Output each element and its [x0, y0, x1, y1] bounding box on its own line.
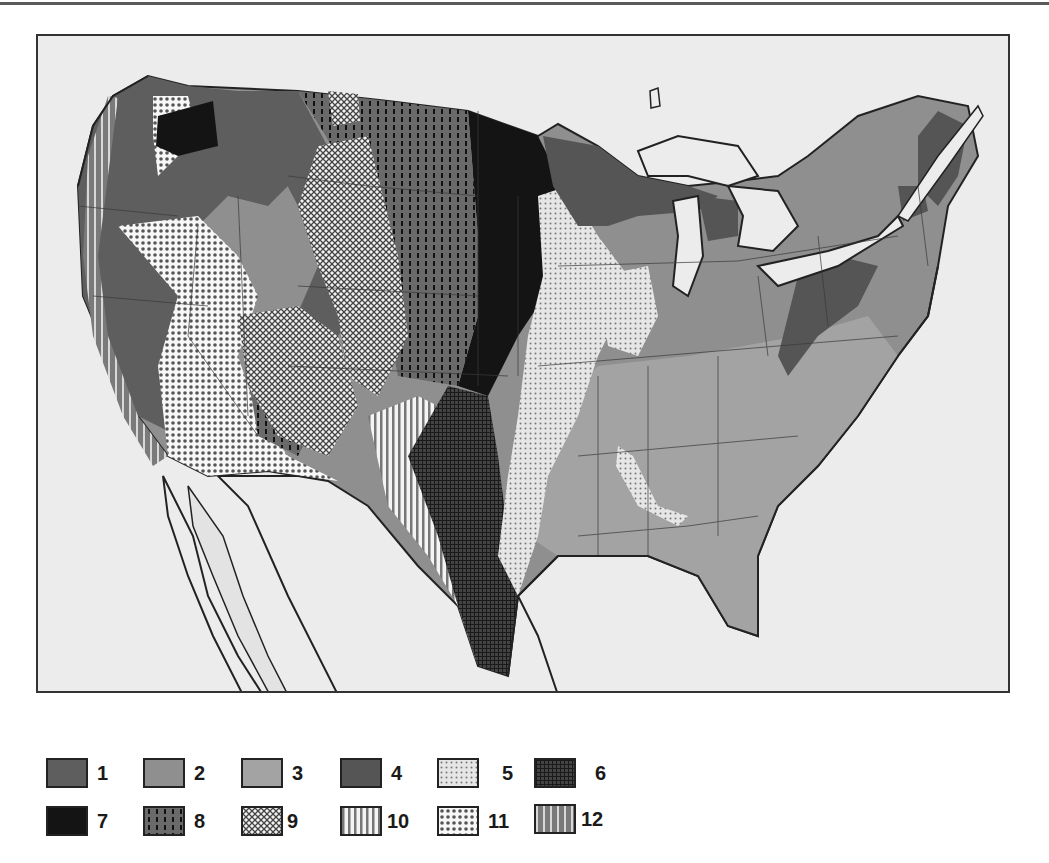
legend-swatch-vertical-lines-dark	[534, 804, 576, 834]
top-rule	[0, 2, 1049, 5]
legend-item-8: 8	[143, 804, 205, 838]
legend-swatch-crosshatch	[241, 806, 283, 836]
legend-label: 5	[502, 762, 513, 785]
legend-swatch-fine-dots	[437, 758, 479, 788]
legend-label: 9	[287, 810, 298, 833]
legend-item-5: 5	[437, 756, 513, 790]
legend-item-6: 6	[534, 756, 606, 790]
legend-item-4: 4	[340, 756, 402, 790]
legend-swatch-vertical-lines-light	[340, 806, 382, 836]
legend-item-9: 9	[241, 804, 298, 838]
legend-swatch-solid-darker-gray	[340, 758, 382, 788]
legend-item-12: 12	[534, 802, 603, 836]
lake-island	[650, 88, 660, 108]
legend-item-3: 3	[241, 756, 303, 790]
legend-swatch-vertical-dashes	[143, 806, 185, 836]
legend-swatch-solid-black	[46, 806, 88, 836]
legend-swatch-solid-medium-gray	[143, 758, 185, 788]
legend-label: 7	[97, 810, 108, 833]
legend-item-7: 7	[46, 804, 108, 838]
lake-superior	[638, 136, 758, 186]
legend-label: 8	[194, 810, 205, 833]
map-legend: 1 2 3 4 5 6 7 8 9 10 11 12	[36, 748, 676, 838]
legend-item-1: 1	[46, 756, 108, 790]
legend-swatch-solid-dark-gray	[46, 758, 88, 788]
legend-label: 11	[488, 810, 509, 833]
legend-item-2: 2	[143, 756, 205, 790]
legend-item-10: 10	[340, 804, 409, 838]
legend-label: 6	[595, 762, 606, 785]
legend-label: 3	[292, 762, 303, 785]
legend-swatch-solid-light-gray	[241, 758, 283, 788]
legend-swatch-large-dots	[437, 806, 479, 836]
map-frame	[36, 34, 1010, 693]
legend-label: 2	[194, 762, 205, 785]
legend-item-11: 11	[437, 804, 509, 838]
legend-label: 4	[391, 762, 402, 785]
legend-swatch-fine-grid-dark	[534, 758, 576, 788]
us-map	[38, 36, 1010, 693]
legend-label: 10	[387, 810, 409, 833]
region-9-montana	[328, 91, 360, 126]
baja-peninsula	[163, 476, 263, 693]
legend-label: 12	[581, 808, 603, 831]
legend-label: 1	[97, 762, 108, 785]
